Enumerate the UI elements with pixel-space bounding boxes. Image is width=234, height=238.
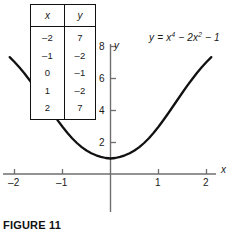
table-cell-x: 2	[31, 99, 65, 119]
table-cell-y: 7	[65, 27, 96, 47]
value-table-body: –2 7 –1 –2 0 –1 1 –2 2 7	[31, 27, 96, 120]
y-tick-label-2: 2	[99, 137, 105, 148]
x-tick-label-2: 2	[203, 177, 209, 188]
x-tick-label--2: –2	[8, 177, 20, 188]
table-cell-y: –1	[65, 64, 96, 82]
y-axis-label: y	[114, 40, 119, 51]
x-tick-label-1: 1	[155, 177, 161, 188]
plot-area: –2 –1 1 2 8 6 4 2 y x y = x4 − 2x2 − 1 x…	[0, 0, 234, 214]
table-row: 0 –1	[31, 64, 96, 82]
value-table-head: x y	[31, 5, 96, 27]
value-table: x y –2 7 –1 –2 0 –1 1 –2	[30, 4, 96, 120]
equation-part-suffix: − 1	[202, 32, 220, 43]
table-row: 1 –2	[31, 82, 96, 100]
y-tick-label-6: 6	[99, 73, 105, 84]
table-row: –2 7	[31, 27, 96, 47]
x-axis-label: x	[221, 164, 226, 175]
equation-annotation: y = x4 − 2x2 − 1	[149, 31, 220, 43]
y-tick-label-8: 8	[99, 41, 105, 52]
table-header-y: y	[65, 5, 96, 27]
table-header-row: x y	[31, 5, 96, 27]
table-row: –1 –2	[31, 47, 96, 65]
equation-part-mid: − 2x	[175, 32, 198, 43]
y-tick-label-4: 4	[99, 105, 105, 116]
figure-container: –2 –1 1 2 8 6 4 2 y x y = x4 − 2x2 − 1 x…	[0, 0, 234, 238]
table-cell-x: 0	[31, 64, 65, 82]
equation-part-prefix: y = x	[149, 32, 171, 43]
x-tick-label--1: –1	[56, 177, 68, 188]
table-cell-x: –1	[31, 47, 65, 65]
table-header-x: x	[31, 5, 65, 27]
table-cell-y: –2	[65, 82, 96, 100]
table-cell-x: 1	[31, 82, 65, 100]
table-cell-y: 7	[65, 99, 96, 119]
table-cell-y: –2	[65, 47, 96, 65]
table-cell-x: –2	[31, 27, 65, 47]
figure-caption: FIGURE 11	[3, 219, 61, 231]
table-row: 2 7	[31, 99, 96, 119]
y-axis-ticks	[111, 47, 117, 143]
